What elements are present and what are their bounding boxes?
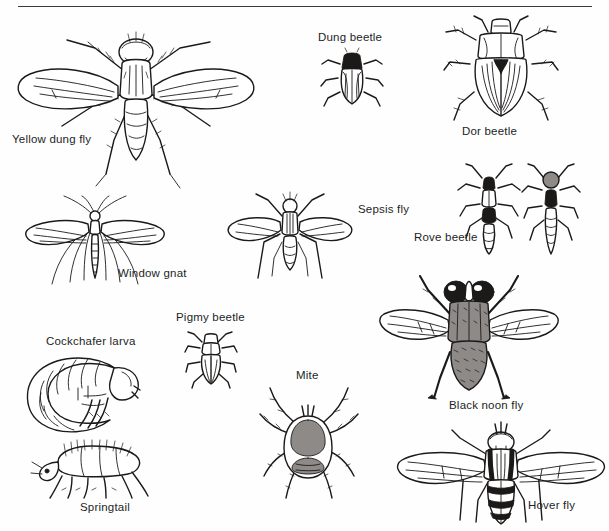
figure-pigmy-beetle bbox=[184, 330, 238, 388]
figure-rove-beetle bbox=[456, 164, 588, 258]
label-mite: Mite bbox=[296, 370, 319, 382]
insect-plate: Yellow dung fly Dung beetle bbox=[0, 0, 609, 531]
figure-dor-beetle bbox=[442, 16, 560, 124]
label-dung-beetle: Dung beetle bbox=[318, 32, 382, 44]
figure-cockchafer-larva bbox=[22, 352, 144, 436]
label-dor-beetle: Dor beetle bbox=[462, 126, 517, 138]
label-hover-fly: Hover fly bbox=[528, 500, 575, 512]
figure-black-noon-fly bbox=[378, 276, 560, 400]
label-yellow-dung-fly: Yellow dung fly bbox=[12, 134, 91, 146]
label-springtail: Springtail bbox=[80, 502, 130, 514]
label-sepsis-fly: Sepsis fly bbox=[358, 204, 409, 216]
label-window-gnat: Window gnat bbox=[118, 268, 187, 280]
figure-hover-fly bbox=[398, 424, 606, 528]
figure-mite bbox=[258, 386, 362, 500]
label-black-noon-fly: Black noon fly bbox=[449, 400, 523, 412]
figure-sepsis-fly bbox=[224, 190, 356, 282]
label-pigmy-beetle: Pigmy beetle bbox=[176, 312, 245, 324]
figure-dung-beetle bbox=[320, 48, 384, 112]
label-cockchafer-larva: Cockchafer larva bbox=[46, 336, 135, 348]
figure-yellow-dung-fly bbox=[10, 18, 260, 196]
top-rule bbox=[18, 6, 592, 7]
label-rove-beetle: Rove beetle bbox=[414, 232, 478, 244]
figure-springtail bbox=[28, 440, 152, 500]
